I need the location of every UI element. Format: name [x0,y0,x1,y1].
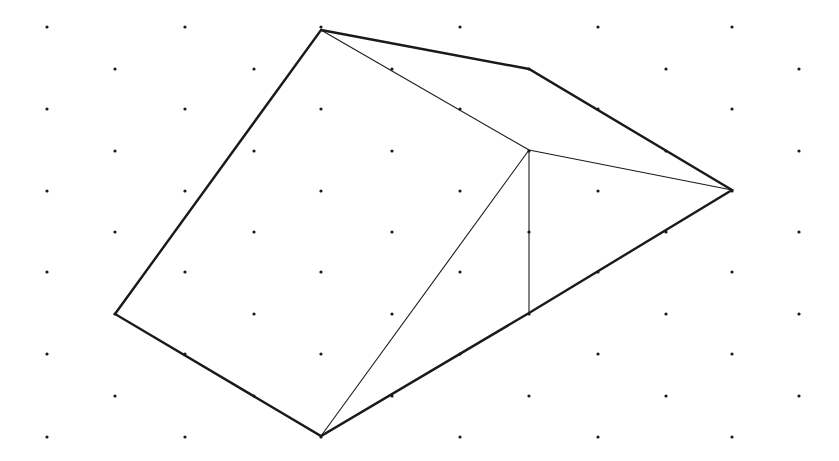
grid-dot [183,25,186,28]
grid-dot [730,25,733,28]
polyhedron-inner-edges [321,30,732,436]
grid-dot [527,394,530,397]
grid-dot [113,230,116,233]
grid-dot [596,189,599,192]
grid-dot [252,149,255,152]
grid-dot [319,25,322,28]
grid-dot [664,312,667,315]
grid-dot [458,189,461,192]
edge-GE [321,150,529,436]
grid-dot [183,435,186,438]
grid-dot [183,270,186,273]
grid-dot [390,149,393,152]
grid-dot [113,394,116,397]
grid-dot [252,67,255,70]
grid-dot [797,394,800,397]
grid-dot [730,435,733,438]
isometric-drawing [0,0,839,461]
grid-dot [596,25,599,28]
grid-dot [319,107,322,110]
grid-dot [45,270,48,273]
grid-dot [797,149,800,152]
grid-dot [797,230,800,233]
grid-dot [596,435,599,438]
grid-dot [252,230,255,233]
grid-dot [664,394,667,397]
grid-dot [797,312,800,315]
grid-dot [797,67,800,70]
grid-dot [458,435,461,438]
grid-dot [596,352,599,355]
polyhedron-outline [115,30,732,436]
grid-dot [730,352,733,355]
grid-dot [319,189,322,192]
grid-dot [319,270,322,273]
grid-dot [252,312,255,315]
edge-GC [529,150,732,190]
grid-dot [45,435,48,438]
grid-dot [664,67,667,70]
grid-dot [730,107,733,110]
edge-AG [321,30,529,150]
grid-dot [390,230,393,233]
grid-dot [458,25,461,28]
grid-dot [45,352,48,355]
grid-dot [458,270,461,273]
grid-dot [730,270,733,273]
grid-dot [319,352,322,355]
grid-dot [45,189,48,192]
grid-dot [113,149,116,152]
grid-dot [183,189,186,192]
grid-dot [183,107,186,110]
grid-dot [390,312,393,315]
grid-dot [45,107,48,110]
grid-dot [45,25,48,28]
grid-dot [113,67,116,70]
